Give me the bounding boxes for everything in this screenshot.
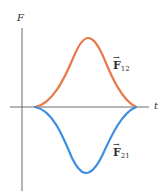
vector-arrow-icon: → bbox=[113, 53, 120, 62]
f-axis-label: F bbox=[17, 12, 24, 23]
f12-label: →F12 bbox=[113, 59, 130, 73]
f21-label: →F21 bbox=[113, 146, 130, 160]
vector-arrow-icon: → bbox=[113, 140, 120, 149]
t-axis-label: t bbox=[154, 100, 158, 111]
f21-curve bbox=[35, 107, 136, 173]
force-time-diagram bbox=[0, 0, 164, 195]
